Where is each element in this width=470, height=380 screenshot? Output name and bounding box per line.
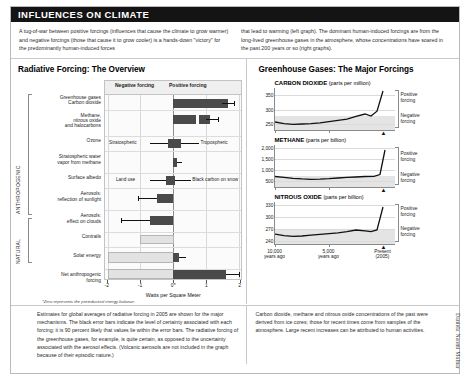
inline-label-tropospheric: Tropospheric: [201, 140, 228, 145]
present-marker-methane: ▲: [380, 187, 386, 193]
bar-carbon-dioxide: [173, 99, 227, 108]
caption-greenhouse-gases: Carbon dioxide, methane and nitrous oxid…: [255, 310, 437, 335]
bracket-tick-natural-top: [28, 218, 32, 219]
forcing-brace-nitrous-oxide: [395, 204, 399, 242]
row-label-strat-water-vapor: Stratospheric watervapor from methane: [32, 149, 104, 171]
forcing-labels-nitrous-oxide: Positiveforcing Negativeforcing: [395, 202, 453, 244]
chart-carbon-dioxide: CARBON DIOXIDE (parts per million) 350 3…: [254, 80, 454, 131]
panels-container: Radiative Forcing: The Overview ANTHROPO…: [11, 59, 459, 304]
row-label-aerosols-reflection: Aerosols:reflection of sunlight: [32, 186, 104, 208]
row-label-aerosols-clouds: Aerosols:effect on clouds: [32, 208, 104, 230]
negative-forcing-label-co2: Negativeforcing: [400, 113, 419, 125]
infographic-page: INFLUENCES ON CLIMATE A tug-of-war betwe…: [0, 0, 470, 380]
gas-name-ch4: METHANE: [274, 137, 304, 143]
bar-contrails: [140, 235, 173, 244]
errorbar-albedo-left: [150, 180, 166, 181]
forcing-brace-co2: [395, 90, 399, 128]
ytick-ch4-1500: 1,500: [261, 156, 273, 161]
gas-units-co2: (parts per million): [329, 80, 371, 86]
gas-name-co2: CARBON DIOXIDE: [274, 80, 327, 86]
bracket-line-natural: [28, 218, 29, 262]
header-negative-forcing: Negative forcing: [115, 82, 154, 88]
chart-methane: METHANE (parts per billion) 2,000 1,500 …: [254, 137, 454, 188]
group-label-anthropogenic: ANTHROPOGENIC: [15, 96, 21, 214]
row-label-methane-n2o-halocarbons: Methane,nitrous oxideand halocarbons: [32, 108, 104, 134]
header-deck: A tug-of-war between positive forcings (…: [11, 22, 459, 59]
category-labels: Greenhouse gasesCarbon dioxide Methane,n…: [32, 80, 104, 298]
gas-units-n2o: (parts per billion): [323, 194, 363, 200]
errorbar-ozone-left: [150, 143, 168, 144]
ytick-n2o-240: 240: [265, 238, 273, 243]
errorbar-net-anthropogenic: [226, 274, 238, 275]
row-label-ozone: Ozone: [32, 134, 104, 149]
negative-forcing-label-n2o: Negativeforcing: [400, 226, 419, 238]
xtick-co2-5000: [329, 130, 330, 133]
bar-methane-group: [173, 115, 196, 124]
bar-net-anthropogenic-bg: [108, 269, 174, 279]
errorcap-net-anthropogenic: [239, 272, 240, 277]
row-label-net-anthropogenic: Net anthropogenicforcing: [32, 267, 104, 289]
right-panel-title: Greenhouse Gases: The Major Forcings: [258, 65, 454, 74]
row-separator: [105, 210, 241, 211]
present-marker-co2: ▲: [380, 130, 386, 136]
page-title: INFLUENCES ON CLIMATE: [18, 9, 149, 20]
caption-right-container: Carbon dioxide, methane and nitrous oxid…: [247, 306, 459, 364]
captions-row: Estimates for global averages of radiati…: [11, 305, 459, 364]
xticklabel-neg2: -2: [105, 282, 109, 288]
x-axis: -2 -1 0* 1 2: [104, 280, 242, 293]
radiative-forcing-chart: ANTHROPOGENIC NATURAL Greenhouse gasesCa…: [16, 80, 242, 298]
gas-name-n2o: NITROUS OXIDE: [274, 194, 321, 200]
ytick-ch4-2000: 2,000: [261, 145, 273, 150]
row-separator: [105, 173, 241, 174]
row-separator: [105, 151, 241, 152]
ytick-co2-250: 250: [265, 121, 273, 126]
positive-forcing-label-methane: Positiveforcing: [400, 151, 417, 163]
xticklabel-5000-years: 5,000years ago: [318, 249, 339, 261]
inline-label-black-carbon: Black carbon on snow: [192, 177, 238, 182]
inline-label-land-use: Land use: [116, 177, 135, 182]
errorbar-aerosols-reflection: [138, 198, 157, 199]
row-separator: [105, 247, 241, 248]
xticklabel-zero: 0*: [171, 282, 176, 288]
bar-aerosols-reflection: [157, 194, 173, 203]
errorcap-carbon-dioxide: [234, 101, 235, 106]
plot-area-co2: ▲: [274, 88, 395, 131]
row-label-surface-albedo: Surface albedo: [32, 171, 104, 186]
chart-title-methane: METHANE (parts per billion): [274, 137, 454, 143]
ytick-co2-350: 350: [265, 92, 273, 97]
xticklabel-10000-years: 10,000years ago: [264, 249, 285, 261]
bracket-line-anthropogenic: [28, 94, 29, 214]
forcing-direction-header: Negative forcing Positive forcing: [104, 80, 242, 94]
errorbar-methane-group: [206, 119, 218, 120]
forcing-brace-methane: [395, 147, 399, 185]
positive-forcing-label-co2: Positiveforcing: [400, 92, 417, 104]
group-label-natural: NATURAL: [15, 220, 21, 264]
row-separator: [105, 136, 241, 137]
plot-area-nitrous-oxide: ▲: [274, 202, 395, 245]
ytick-co2-300: 300: [265, 107, 273, 112]
ytick-n2o-270: 270: [265, 226, 273, 231]
xtick-co2-10000: [275, 130, 276, 133]
bar-plot-column: Negative forcing Positive forcing: [104, 80, 242, 298]
bracket-tick-anthro-bottom: [28, 214, 32, 215]
ytick-n2o-300: 300: [265, 214, 273, 219]
xticklabel-neg1: -1: [138, 282, 142, 288]
category-group-brackets: ANTHROPOGENIC NATURAL: [16, 80, 32, 298]
radiative-forcing-panel: Radiative Forcing: The Overview ANTHROPO…: [11, 59, 247, 304]
bar-solar-energy: [108, 252, 174, 263]
errorbar-carbon-dioxide: [222, 103, 234, 104]
xtick-ch4-10000: [275, 187, 276, 190]
illustrator-credit: Daniela Naomi Molnar: [455, 313, 461, 369]
negative-forcing-label-methane: Negativeforcing: [400, 172, 419, 184]
errorcap-aerosols-clouds: [121, 218, 122, 223]
xticklabel-present: Present(2005): [374, 249, 391, 261]
caption-left-container: Estimates for global averages of radiati…: [11, 306, 247, 364]
chart-title-nitrous-oxide: NITROUS OXIDE (parts per billion): [274, 194, 454, 200]
zero-footnote: *Zero represents the preindustrial energ…: [42, 299, 242, 304]
row-label-greenhouse-co2: Greenhouse gasesCarbon dioxide: [32, 93, 104, 108]
errorbar-aerosols-clouds: [121, 220, 150, 221]
left-panel-title: Radiative Forcing: The Overview: [18, 65, 242, 74]
forcing-labels-co2: Positiveforcing Negativeforcing: [395, 88, 453, 130]
deck-text-right: that lead to warming (left graph). The d…: [241, 27, 451, 53]
series-line-co2: [275, 88, 395, 130]
